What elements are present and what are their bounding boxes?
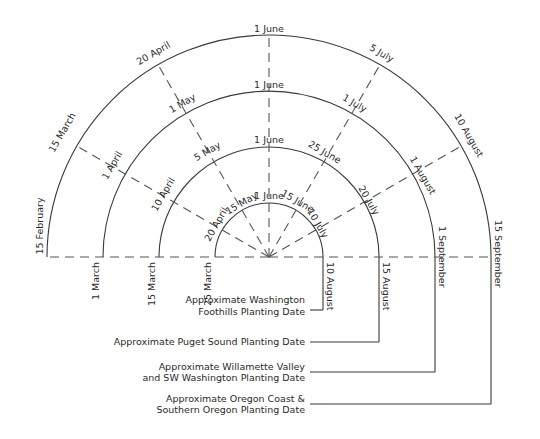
- date-label: 1 July: [341, 92, 369, 115]
- legend-willamette-line2: and SW Washington Planting Date: [142, 372, 305, 383]
- planting-date-diagram: 25 March 20 April 15 May 1 June 15 June …: [0, 0, 540, 439]
- legend-coast-line2: Southern Oregon Planting Date: [157, 404, 306, 415]
- date-label: 10 August: [452, 112, 486, 160]
- date-label: 1 March: [90, 262, 101, 300]
- date-label: 1 September: [437, 226, 448, 288]
- date-label: 1 June: [254, 79, 284, 90]
- date-label: 20 April: [135, 39, 172, 67]
- legend-willamette-line1: Approximate Willamette Valley: [159, 361, 306, 372]
- date-label: 5 July: [368, 42, 396, 65]
- date-label: 1 April: [100, 149, 125, 181]
- date-label: 1 May: [167, 91, 198, 115]
- date-label: 15 September: [493, 220, 504, 288]
- date-label: 10 August: [325, 262, 336, 311]
- date-label: 15 February: [34, 197, 45, 255]
- date-label: 1 August: [408, 154, 439, 196]
- date-label: 1 June: [254, 134, 284, 145]
- date-label: 1 June: [254, 23, 284, 34]
- date-label: 10 April: [149, 176, 177, 213]
- legend-foothills-line1: Approximate Washington: [185, 294, 305, 305]
- legend-foothills-line2: Foothills Planting Date: [198, 306, 305, 317]
- date-label: 15 March: [146, 262, 157, 306]
- date-label: 15 August: [381, 262, 392, 311]
- legend-puget: Approximate Puget Sound Planting Date: [114, 336, 305, 347]
- date-label: 15 March: [46, 110, 78, 154]
- legend-coast-line1: Approximate Oregon Coast &: [166, 393, 306, 404]
